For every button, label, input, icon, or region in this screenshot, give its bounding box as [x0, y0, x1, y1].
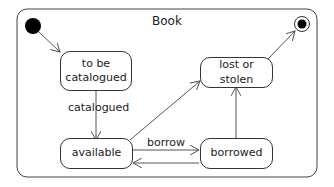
- state-borrowed[interactable]: borrowed: [200, 138, 273, 169]
- state-available[interactable]: available: [60, 138, 133, 169]
- state-lost-or-stolen[interactable]: lost or stolen: [200, 57, 273, 88]
- transition-to-final: [268, 31, 295, 59]
- state-to-be-catalogued[interactable]: to be catalogued: [60, 51, 132, 91]
- transition-label-catalogued: catalogued: [68, 101, 129, 114]
- initial-state-icon: [25, 18, 41, 34]
- transition-available-lost: [130, 81, 200, 140]
- transition-label-borrow: borrow: [147, 136, 185, 149]
- transition-initial: [39, 32, 60, 52]
- composite-state-title: Book: [152, 14, 182, 28]
